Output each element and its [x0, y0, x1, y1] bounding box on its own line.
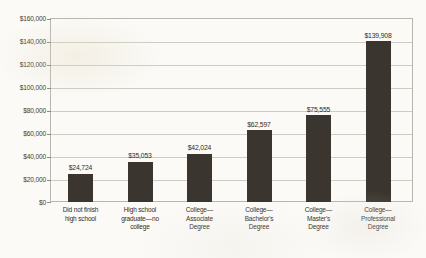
x-axis-label-line: graduate—no — [109, 215, 171, 224]
x-axis-label-line: Degree — [347, 223, 409, 232]
x-axis-label-line: Professional — [347, 215, 409, 224]
gridline — [51, 88, 412, 89]
y-axis-tick-label: $120,000 — [0, 61, 46, 68]
x-axis-category-labels: Did not finishhigh schoolHigh schoolgrad… — [50, 206, 413, 252]
x-axis-category-label: College—ProfessionalDegree — [347, 206, 409, 232]
x-axis-category-label: Did not finishhigh school — [50, 206, 112, 223]
x-axis-label-line: Degree — [228, 223, 290, 232]
y-axis-tick-label: $20,000 — [0, 176, 46, 183]
y-axis-tick-mark — [47, 180, 51, 181]
x-axis-label-line: Degree — [288, 223, 350, 232]
y-axis-tick-label: $60,000 — [0, 130, 46, 137]
x-axis-label-line: Bachelor's — [228, 215, 290, 224]
x-axis-label-line: Degree — [169, 223, 231, 232]
y-axis-tick-label: $40,000 — [0, 153, 46, 160]
y-axis-tick-mark — [47, 111, 51, 112]
y-axis-tick-label: $160,000 — [0, 15, 46, 22]
x-axis-label-line: High school — [109, 206, 171, 215]
bar-chart-figure: $0$20,000$40,000$60,000$80,000$100,000$1… — [0, 0, 426, 258]
x-axis-label-line: high school — [50, 215, 112, 224]
x-axis-label-line: College— — [347, 206, 409, 215]
gridlines — [51, 19, 412, 201]
gridline — [51, 180, 412, 181]
gridline — [51, 42, 412, 43]
y-axis-tick-label: $140,000 — [0, 38, 46, 45]
x-axis-label-line: college — [109, 223, 171, 232]
y-axis-tick-mark — [47, 157, 51, 158]
y-axis-tick-label: $0 — [0, 199, 46, 206]
x-axis-category-label: High schoolgraduate—nocollege — [109, 206, 171, 232]
x-axis-label-line: Did not finish — [50, 206, 112, 215]
x-axis-label-line: College— — [288, 206, 350, 215]
x-axis-category-label: College—AssociateDegree — [169, 206, 231, 232]
gridline — [51, 157, 412, 158]
x-axis-category-label: College—Bachelor'sDegree — [228, 206, 290, 232]
y-axis-tick-mark — [47, 65, 51, 66]
x-axis-label-line: Master's — [288, 215, 350, 224]
x-axis-label-line: College— — [228, 206, 290, 215]
x-axis-label-line: Associate — [169, 215, 231, 224]
y-axis-tick-mark — [47, 202, 51, 203]
plot-area — [50, 18, 413, 202]
y-axis-tick-mark — [47, 88, 51, 89]
x-axis-category-label: College—Master'sDegree — [288, 206, 350, 232]
y-axis-tick-label: $80,000 — [0, 107, 46, 114]
y-axis-tick-mark — [47, 134, 51, 135]
y-axis-tick-mark — [47, 42, 51, 43]
gridline — [51, 65, 412, 66]
y-axis-tick-label: $100,000 — [0, 84, 46, 91]
gridline — [51, 111, 412, 112]
gridline — [51, 134, 412, 135]
x-axis-label-line: College— — [169, 206, 231, 215]
y-axis-tick-mark — [47, 19, 51, 20]
